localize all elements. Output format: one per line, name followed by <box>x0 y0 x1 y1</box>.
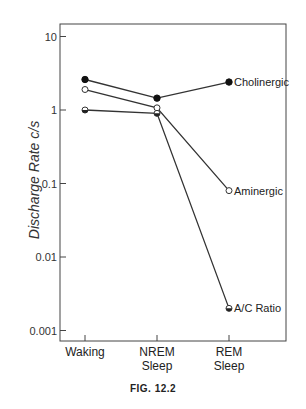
series-line <box>85 110 229 308</box>
x-tick-label: REM <box>216 345 243 359</box>
filled-circle-marker <box>82 76 88 82</box>
series-label: Aminergic <box>234 185 283 197</box>
series-aminergic: Aminergic <box>82 87 283 197</box>
x-tick-label: NREM <box>139 345 174 359</box>
series-group: CholinergicAminergicA/C Ratio <box>82 76 290 314</box>
series-cholinergic: Cholinergic <box>82 76 290 101</box>
open-circle-marker <box>226 188 232 194</box>
y-tick-label: 0.1 <box>42 178 57 190</box>
y-tick-label: 0.01 <box>36 251 57 263</box>
y-tick-label: 0.001 <box>29 325 57 337</box>
series-a-c-ratio: A/C Ratio <box>82 107 281 314</box>
figure-caption: FIG. 12.2 <box>0 383 306 394</box>
filled-circle-marker <box>154 95 160 101</box>
open-circle-marker <box>82 87 88 93</box>
x-tick-label: Waking <box>65 345 105 359</box>
plot-frame <box>60 24 286 341</box>
y-axis-label: Discharge Rate c/s <box>26 121 42 239</box>
series-label: Cholinergic <box>234 76 290 88</box>
x-tick-label: Sleep <box>142 359 173 373</box>
filled-circle-marker <box>226 79 232 85</box>
y-tick-label: 10 <box>45 31 57 43</box>
line-chart: 1010.10.010.001 WakingNREMSleepREMSleep … <box>0 0 306 409</box>
x-tick-label: Sleep <box>214 359 245 373</box>
y-tick-label: 1 <box>51 104 57 116</box>
series-label: A/C Ratio <box>234 302 281 314</box>
